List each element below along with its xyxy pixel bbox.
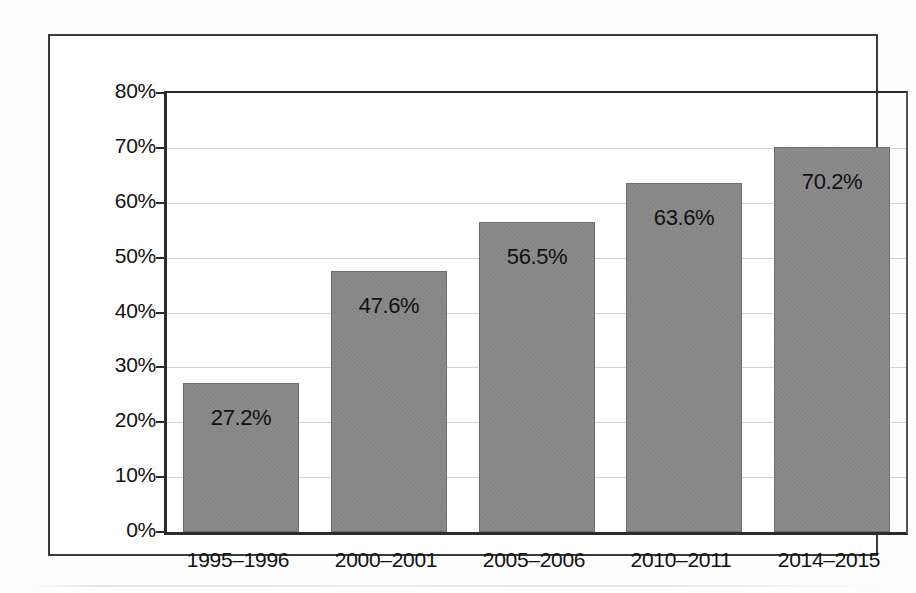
y-axis-tick — [156, 366, 165, 368]
y-axis-tick-label: 70% — [98, 134, 156, 158]
bar-value-label: 47.6% — [331, 293, 447, 319]
bar-value-label: 70.2% — [774, 169, 890, 195]
scan-artifact-line — [30, 585, 886, 587]
y-axis-tick — [156, 421, 165, 423]
y-axis-tick — [156, 147, 165, 149]
y-axis-tick-label: 0% — [98, 518, 156, 542]
bar: 70.2% — [774, 147, 890, 532]
bar: 63.6% — [626, 183, 742, 532]
y-axis-tick-label: 10% — [98, 463, 156, 487]
plot-area: 27.2%47.6%56.5%63.6%70.2% — [164, 91, 908, 535]
y-axis-tick — [156, 476, 165, 478]
x-axis: 1995–19962000–20012005–20062010–20112014… — [164, 548, 908, 582]
bar: 47.6% — [331, 271, 447, 532]
y-axis-tick — [156, 92, 165, 94]
y-axis-tick-label: 20% — [98, 408, 156, 432]
y-axis: 0%10%20%30%40%50%60%70%80% — [98, 91, 156, 535]
bar: 27.2% — [183, 383, 299, 532]
y-axis-tick-label: 50% — [98, 244, 156, 268]
y-axis-tick-label: 80% — [98, 79, 156, 103]
y-axis-tick — [156, 312, 165, 314]
y-axis-tick-label: 60% — [98, 189, 156, 213]
bar: 56.5% — [479, 222, 595, 532]
y-axis-tick — [156, 202, 165, 204]
y-axis-tick — [156, 257, 165, 259]
chart-figure-frame: 0%10%20%30%40%50%60%70%80% 27.2%47.6%56.… — [48, 34, 878, 556]
y-axis-tick-label: 40% — [98, 299, 156, 323]
y-axis-tick-label: 30% — [98, 353, 156, 377]
bar-value-label: 27.2% — [183, 405, 299, 431]
y-axis-tick — [156, 531, 165, 533]
bar-value-label: 63.6% — [626, 205, 742, 231]
bar-value-label: 56.5% — [479, 244, 595, 270]
x-axis-category-label: 2014–2015 — [738, 548, 916, 572]
